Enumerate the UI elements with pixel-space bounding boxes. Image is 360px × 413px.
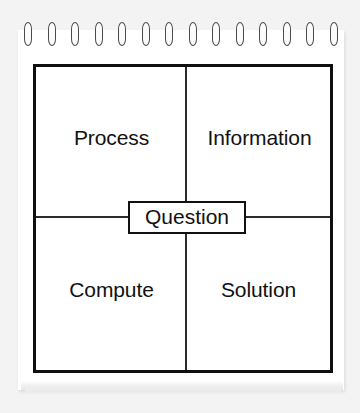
spiral-ring-icon [306, 22, 314, 46]
quadrant-top-right[interactable]: Information [183, 67, 330, 218]
spiral-ring-icon [24, 22, 32, 46]
page-bottom-edge-shadow [25, 388, 341, 393]
spiral-ring-icon [259, 22, 267, 46]
spiral-ring-icon [118, 22, 126, 46]
spiral-ring-icon [283, 22, 291, 46]
quadrant-top-left-label: Process [74, 126, 149, 150]
spiral-ring-icon [95, 22, 103, 46]
spiral-ring-icon [330, 22, 338, 46]
spiral-ring-icon [48, 22, 56, 46]
quadrant-top-left[interactable]: Process [36, 67, 183, 218]
quadrant-bottom-right[interactable]: Solution [183, 219, 330, 370]
quadrant-top-right-label: Information [208, 126, 312, 150]
spiral-ring-icon [189, 22, 197, 46]
spiral-ring-icon [165, 22, 173, 46]
spiral-ring-icon [71, 22, 79, 46]
quadrant-bottom-right-label: Solution [221, 278, 296, 302]
center-question-box[interactable]: Question [128, 201, 246, 234]
spiral-ring-icon [236, 22, 244, 46]
quadrant-bottom-left[interactable]: Compute [36, 219, 183, 370]
diagram-canvas: Process Information Compute Solution Que… [0, 0, 360, 413]
quadrant-bottom-left-label: Compute [69, 278, 154, 302]
center-question-label: Question [145, 205, 229, 229]
spiral-ring-icon [142, 22, 150, 46]
spiral-binding [24, 20, 338, 48]
spiral-ring-icon [212, 22, 220, 46]
